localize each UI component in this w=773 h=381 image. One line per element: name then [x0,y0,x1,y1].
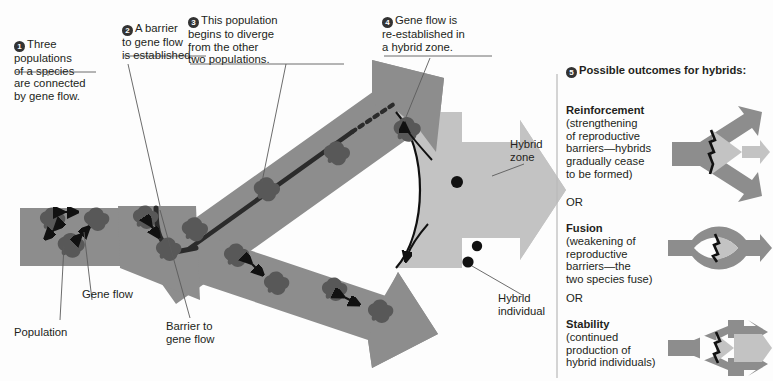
outcome-fusion-line-4: two species fuse) [566,273,652,285]
outcome-reinforcement-line-2: of reproductive [566,130,640,142]
outcomes-panel-heading: 5Possible outcomes for hybrids: [566,64,766,78]
step-3-line-1: This population [201,14,278,26]
step-caption-3: 3This population begins to diverge from … [188,14,348,66]
outcome-reinforcement-line-5: to be formed) [566,168,633,180]
step-3-line-4: two populations. [188,53,270,65]
outcome-stability-line-2: production of [566,344,631,356]
reinforcement-diagram [672,106,770,202]
step-2-line-1: A barrier [135,22,178,34]
label-hybrid-zone-line-2: zone [510,151,535,163]
label-hybrid-zone-line-1: Hybrid [510,138,543,150]
step-1-line-4: are connected [14,77,86,89]
outcome-fusion-title: Fusion [566,222,603,234]
outcomes-heading-text: Possible outcomes for hybrids: [579,64,746,76]
step-2-line-2: to gene flow [122,36,183,48]
hybrid-individual-dot [451,176,463,188]
step-4-line-2: re-established in [382,28,465,40]
outcome-reinforcement-line-1: (strengthening [566,117,638,129]
step-badge-2: 2 [122,25,133,36]
step-badge-5: 5 [566,67,577,78]
label-population: Population [14,326,67,339]
step-2-line-3: is established. [122,49,194,61]
step-1-line-3: of a species [14,65,74,77]
outcome-stability-title: Stability [566,318,610,330]
hybrid-individual-dot [462,256,473,267]
figure-canvas: 1Three populations of a species are conn… [0,0,773,381]
step-badge-1: 1 [14,41,25,52]
outcome-fusion: Fusion (weakening of reproductive barrie… [566,222,681,286]
outcome-fusion-line-1: (weakening of [566,235,636,247]
outcome-stability: Stability (continued production of hybri… [566,318,686,369]
outcome-separator-1: OR [566,196,583,208]
label-gene-flow: Gene flow [82,288,133,301]
step-1-line-5: by gene flow. [14,90,80,102]
label-hybrid-zone: Hybrid zone [510,138,570,164]
label-hybrid-individual: Hybrid individual [498,292,568,318]
step-1-line-2: populations [14,52,72,64]
step-caption-4: 4Gene flow is re-established in a hybrid… [382,14,502,53]
label-barrier-to-gene-flow: Barrier to gene flow [166,320,246,346]
outcome-stability-line-3: hybrid individuals) [566,356,656,368]
label-hybrid-individual-line-2: individual [498,305,545,317]
step-1-line-1: Three [27,38,57,50]
step-4-line-3: a hybrid zone. [382,41,453,53]
fusion-diagram [668,227,772,270]
label-barrier-line-2: gene flow [166,333,214,345]
step-badge-4: 4 [382,17,393,28]
outcome-fusion-line-2: reproductive [566,248,628,260]
outcome-reinforcement-line-4: gradually cease [566,155,644,167]
step-badge-3: 3 [188,17,199,28]
outcome-reinforcement-line-3: barriers—hybrids [566,142,651,154]
outcome-separator-2: OR [566,292,583,304]
hybrid-individual-dot [472,241,482,251]
outcome-reinforcement: Reinforcement (strengthening of reproduc… [566,104,676,181]
outcome-stability-line-1: (continued [566,331,618,343]
label-hybrid-individual-line-1: Hybrid [498,292,531,304]
outcome-fusion-line-3: barriers—the [566,260,631,272]
label-barrier-line-1: Barrier to [166,320,212,332]
step-4-line-1: Gene flow is [395,14,457,26]
step-caption-1: 1Three populations of a species are conn… [14,38,114,102]
outcome-reinforcement-title: Reinforcement [566,104,644,116]
step-3-line-3: from the other [188,41,258,53]
step-3-line-2: begins to diverge [188,28,274,40]
